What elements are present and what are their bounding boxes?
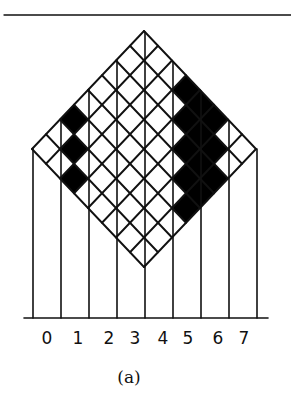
axis-label-7: 7 <box>239 330 250 347</box>
shaded-cell <box>60 164 88 194</box>
shaded-cell <box>60 105 88 135</box>
axis-label-6: 6 <box>213 330 224 347</box>
axis-label-5: 5 <box>183 330 194 347</box>
diamond-grid-figure <box>0 0 291 418</box>
shaded-cell <box>60 134 88 164</box>
axis-label-3: 3 <box>130 330 141 347</box>
axis-label-2: 2 <box>104 330 115 347</box>
axis-label-4: 4 <box>158 330 169 347</box>
figure-caption: (a) <box>117 367 140 387</box>
axis-label-0: 0 <box>42 330 53 347</box>
axis-label-1: 1 <box>73 330 84 347</box>
